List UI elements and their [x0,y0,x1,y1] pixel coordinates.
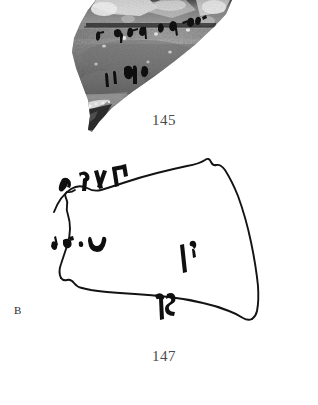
inscription-group-right-upper [180,241,196,273]
side-label-b: B [14,304,21,316]
figure-145: 145 [0,0,318,140]
figure-147 [0,145,318,360]
inscription-group-line-2 [51,236,106,252]
inscription-group-line-1 [59,164,128,192]
ostraca-plate: 145 [0,0,318,405]
figure-145-caption: 145 [134,112,194,129]
ostracon-line-drawing [0,145,318,360]
sherd-lower-edge [78,92,128,130]
figure-147-caption: 147 [134,348,194,365]
